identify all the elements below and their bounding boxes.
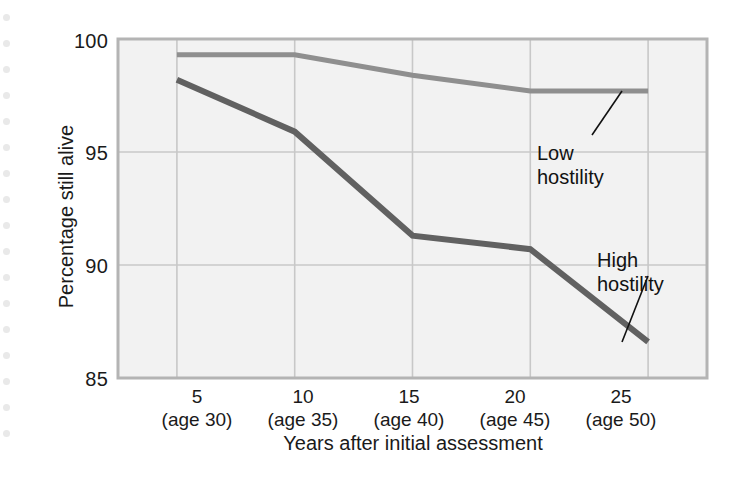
low-hostility-annotation: Low hostility	[537, 141, 604, 189]
x-tick-5-age: (age 30)	[137, 408, 257, 431]
low-hostility-annotation-line1: Low	[537, 141, 604, 165]
chart-figure: 100 95 90 85 5 (age 30) 10 (age 35) 15 (…	[0, 0, 738, 482]
x-tick-20: 20 (age 45)	[455, 386, 575, 431]
x-tick-25-age: (age 50)	[561, 408, 681, 431]
x-tick-20-value: 20	[455, 386, 575, 408]
x-tick-10-age: (age 35)	[243, 408, 363, 431]
x-tick-15-value: 15	[349, 386, 469, 408]
x-tick-5: 5 (age 30)	[137, 386, 257, 431]
y-tick-label-85: 85	[48, 368, 108, 391]
x-tick-15: 15 (age 40)	[349, 386, 469, 431]
x-tick-25: 25 (age 50)	[561, 386, 681, 431]
high-hostility-annotation-line1: High	[597, 248, 664, 272]
figure-page: 100 95 90 85 5 (age 30) 10 (age 35) 15 (…	[0, 0, 738, 482]
x-axis-title: Years after initial assessment	[118, 432, 708, 455]
x-tick-10-value: 10	[243, 386, 363, 408]
x-tick-20-age: (age 45)	[455, 408, 575, 431]
x-tick-5-value: 5	[137, 386, 257, 408]
x-tick-25-value: 25	[561, 386, 681, 408]
low-hostility-annotation-line2: hostility	[537, 165, 604, 189]
high-hostility-annotation: High hostility	[597, 248, 664, 296]
x-tick-15-age: (age 40)	[349, 408, 469, 431]
x-tick-10: 10 (age 35)	[243, 386, 363, 431]
high-hostility-annotation-line2: hostility	[597, 272, 664, 296]
y-axis-title: Percentage still alive	[55, 87, 78, 347]
y-tick-label-100: 100	[48, 30, 108, 53]
